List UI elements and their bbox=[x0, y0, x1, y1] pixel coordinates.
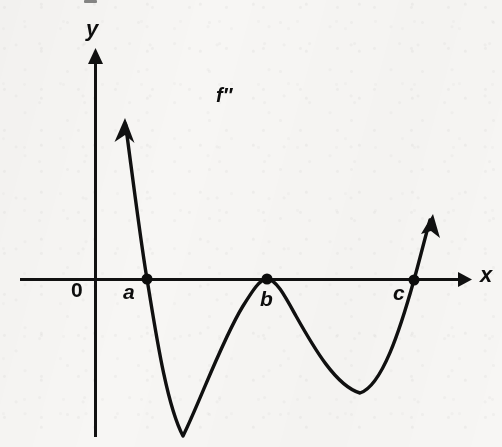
y-axis bbox=[88, 48, 103, 437]
curve-group bbox=[115, 118, 441, 436]
origin-label: 0 bbox=[71, 279, 83, 300]
point-b-label: b bbox=[260, 288, 273, 309]
y-axis-label: y bbox=[86, 18, 98, 40]
graph-plot bbox=[0, 0, 502, 447]
point-a-label: a bbox=[123, 281, 135, 302]
x-axis-label: x bbox=[480, 264, 492, 286]
point-b-dot bbox=[262, 274, 273, 285]
curve-label-f-double-prime: f″ bbox=[216, 85, 232, 105]
x-axis-arrowhead-icon bbox=[458, 272, 472, 287]
point-c-label: c bbox=[393, 282, 405, 303]
point-c-dot bbox=[409, 275, 420, 286]
y-axis-arrowhead-icon bbox=[88, 48, 103, 64]
curve-left-arrowhead-icon bbox=[115, 118, 135, 143]
figure-canvas: y x 0 a b c f″ bbox=[0, 0, 502, 447]
curve-right-arrowhead-icon bbox=[421, 214, 440, 238]
point-a-dot bbox=[142, 274, 153, 285]
